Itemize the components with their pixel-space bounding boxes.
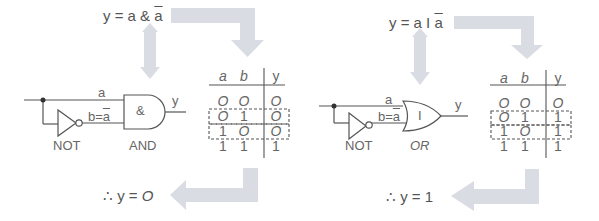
expression-or: y = a I a — [389, 15, 443, 30]
cell: 1 — [496, 139, 512, 153]
b-equals: b= — [378, 109, 393, 124]
expression-lhs: y = a I — [389, 14, 434, 31]
cell: 1 — [550, 110, 566, 124]
header-a: a — [496, 71, 512, 85]
cell: O — [496, 110, 512, 124]
cell: O — [496, 96, 512, 110]
cell: O — [517, 124, 533, 138]
cell: 1 — [517, 139, 533, 153]
double-arrow-expression-circuit — [410, 28, 430, 85]
therefore-symbol: ∴ — [386, 188, 396, 205]
or-gate-label: OR — [410, 139, 430, 152]
header-b: b — [517, 71, 533, 85]
expression-a-bar: a — [434, 14, 442, 31]
conclusion-or: ∴ y = 1 — [386, 189, 433, 204]
conclusion-text: y = — [400, 188, 425, 205]
output-y-label: y — [455, 98, 462, 111]
arrow-table-to-conclusion — [451, 169, 539, 211]
cell: O — [517, 96, 533, 110]
cell: 1 — [550, 139, 566, 153]
cell: O — [550, 96, 566, 110]
input-b-label: b=a — [378, 110, 400, 123]
a-bar: a — [393, 109, 400, 124]
header-y: y — [550, 71, 566, 85]
not-gate-label: NOT — [345, 139, 372, 152]
conclusion-value: 1 — [425, 188, 433, 205]
cell: 1 — [517, 110, 533, 124]
or-gate-symbol: I — [418, 109, 422, 122]
arrow-expression-to-table — [454, 16, 543, 59]
cell: 1 — [496, 124, 512, 138]
input-a-label: a — [385, 93, 392, 106]
cell: 1 — [550, 124, 566, 138]
